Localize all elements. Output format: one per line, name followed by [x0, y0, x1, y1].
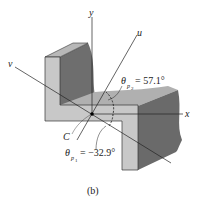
figure-caption: (b) [87, 185, 99, 197]
y-axis-label: y [88, 7, 94, 18]
theta-p1-value: = −32.9° [80, 147, 115, 158]
theta-p2-value: = 57.1° [135, 75, 165, 86]
theta-p2-sub: p [126, 83, 130, 89]
centroid-label: C [63, 131, 70, 142]
centroid-point [90, 112, 94, 116]
z-section-diagram: y u v x C θ p 2 = 57.1° θ p 1 = −32.9° (… [0, 0, 201, 204]
theta-p1-sub: p [70, 155, 74, 161]
x-axis-label: x [184, 108, 190, 119]
theta-p2-symbol: θ [121, 75, 126, 86]
u-axis-label: u [137, 27, 142, 38]
theta-p1-label: θ p 1 = −32.9° [65, 147, 115, 163]
theta-p1-symbol: θ [65, 147, 70, 158]
v-axis-label: v [8, 58, 13, 69]
theta-p1-sub-index: 1 [75, 158, 78, 163]
